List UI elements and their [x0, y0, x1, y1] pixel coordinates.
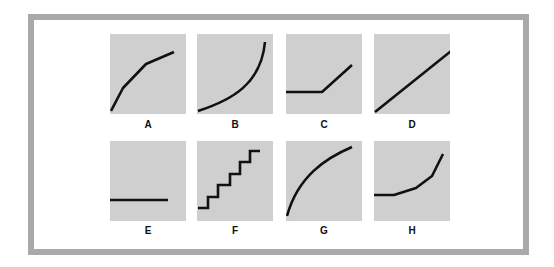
curve-c-icon	[286, 34, 362, 114]
panel-c	[286, 34, 362, 114]
curve-h-icon	[374, 141, 450, 221]
panel-a	[110, 34, 186, 114]
panel-h	[374, 141, 450, 221]
panel-e-label: E	[110, 225, 186, 236]
curve-d-icon	[374, 34, 450, 114]
panel-c-label: C	[286, 119, 362, 130]
curve-e-icon	[110, 141, 186, 221]
panel-f	[197, 141, 273, 221]
curve-f-icon	[197, 141, 273, 221]
panel-h-label: H	[374, 225, 450, 236]
curve-g-icon	[286, 141, 362, 221]
figure-frame	[28, 14, 529, 255]
panel-d-label: D	[374, 119, 450, 130]
panel-e	[110, 141, 186, 221]
panel-b	[197, 34, 273, 114]
panel-g	[286, 141, 362, 221]
panel-f-label: F	[197, 225, 273, 236]
panel-d	[374, 34, 450, 114]
panel-g-label: G	[286, 225, 362, 236]
curve-a-icon	[110, 34, 186, 114]
curve-b-icon	[197, 34, 273, 114]
panel-b-label: B	[197, 119, 273, 130]
panel-a-label: A	[110, 119, 186, 130]
